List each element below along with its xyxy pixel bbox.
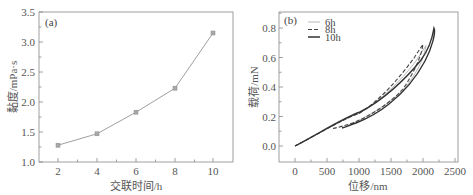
chart-b-legend: 6h 8h 10h: [308, 17, 342, 43]
chart-a-markers: [56, 31, 215, 147]
chart-a-panel-label: (a): [45, 16, 58, 29]
chart-a-ytick-label: 1.5: [21, 126, 35, 138]
legend-label-10h: 10h: [325, 32, 342, 43]
chart-b-ytick-label: 0.0: [262, 140, 276, 152]
chart-a: 1.0 1.5 2.0 2.5 3.0 3.5 2 4 6 8 10 交联时间/…: [6, 6, 233, 192]
chart-b-y-axis-title: 载荷/mN: [248, 66, 260, 108]
curve-10h: [295, 28, 435, 146]
chart-a-xtick-label: 8: [172, 165, 178, 177]
chart-a-x-axis-title: 交联时间/h: [110, 179, 163, 192]
curve-6h: [295, 46, 426, 146]
chart-b-xtick-label: 2000: [412, 165, 435, 177]
figure-canvas: 1.0 1.5 2.0 2.5 3.0 3.5 2 4 6 8 10 交联时间/…: [0, 0, 473, 195]
chart-b-xtick-label: 500: [319, 165, 336, 177]
chart-b-x-ticks: [295, 158, 455, 162]
data-point-square-marker: [56, 143, 60, 147]
chart-a-frame: [39, 12, 233, 162]
chart-b-ytick-label: 0.8: [262, 22, 276, 34]
chart-b: 0.0 0.2 0.4 0.6 0.8 0 500 1000 1500 2000…: [248, 12, 467, 192]
chart-b-xtick-label: 1000: [348, 165, 371, 177]
chart-b-xtick-label: 0: [292, 165, 298, 177]
chart-a-ytick-label: 3.0: [21, 36, 35, 48]
chart-b-ytick-label: 0.4: [262, 81, 276, 93]
chart-a-y-axis-title: 黏度/mPa·s: [6, 61, 19, 114]
chart-a-viscosity-line: [58, 33, 213, 145]
chart-a-xtick-label: 2: [55, 165, 61, 177]
chart-b-x-axis-title: 位移/nm: [348, 179, 388, 192]
chart-b-xtick-label: 1500: [380, 165, 403, 177]
chart-a-x-ticks: [58, 158, 213, 162]
data-point-square-marker: [134, 110, 138, 114]
chart-a-ytick-label: 2.0: [21, 96, 35, 108]
chart-b-ytick-label: 0.2: [262, 111, 276, 123]
chart-b-panel-label: (b): [284, 14, 297, 27]
chart-b-y-ticks: [279, 13, 283, 146]
chart-a-ytick-label: 3.5: [21, 6, 35, 18]
data-point-square-marker: [173, 86, 177, 90]
chart-a-xtick-label: 6: [133, 165, 139, 177]
chart-a-xtick-label: 4: [94, 165, 100, 177]
chart-a-ytick-label: 2.5: [21, 66, 35, 78]
curve-8h: [295, 44, 423, 146]
data-point-square-marker: [95, 132, 99, 136]
chart-b-xtick-label: 2500: [444, 165, 467, 177]
data-point-square-marker: [211, 31, 215, 35]
chart-a-ytick-label: 1.0: [21, 156, 35, 168]
chart-a-xtick-label: 10: [208, 165, 220, 177]
chart-a-y-ticks: [39, 12, 43, 162]
chart-b-ytick-label: 0.6: [262, 52, 276, 64]
